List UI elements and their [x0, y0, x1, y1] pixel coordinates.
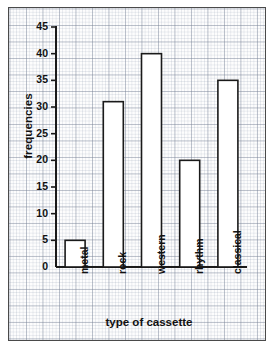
y-axis-tick-label: 40 — [22, 48, 48, 59]
y-axis-tick-label: 45 — [22, 21, 48, 32]
graph-paper-frame: 051015202530354045 metalrockwesternrhyth… — [8, 7, 266, 341]
plot-area: 051015202530354045 metalrockwesternrhyth… — [9, 8, 265, 340]
x-axis-category-label: metal — [79, 247, 90, 274]
y-axis-tick-label: 10 — [22, 208, 48, 219]
bar — [103, 102, 123, 267]
x-axis-title: type of cassette — [49, 316, 249, 328]
y-axis-tick-label: 5 — [22, 234, 48, 245]
x-axis-category-label: western — [156, 234, 167, 274]
x-axis-category-label: rhythm — [194, 238, 205, 274]
bar-chart-figure: 051015202530354045 metalrockwesternrhyth… — [0, 0, 276, 350]
y-axis-title: frequencies — [22, 71, 34, 181]
y-axis-tick-label: 15 — [22, 181, 48, 192]
x-axis-category-label: rock — [117, 252, 128, 274]
y-axis-tick-label: 0 — [22, 261, 48, 272]
x-axis-category-label: classical — [232, 230, 243, 274]
